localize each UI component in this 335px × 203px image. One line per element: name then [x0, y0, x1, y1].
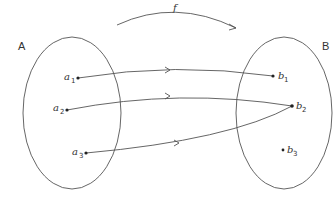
element-b1: b 1: [271, 70, 288, 84]
mapping-a3-b2: [86, 106, 292, 153]
mapping-a2-b2: [67, 98, 292, 110]
set-a-label: A: [18, 40, 26, 52]
element-b2-subscript: 2: [302, 106, 306, 114]
element-a1-dot: [76, 76, 79, 79]
element-a3-label: a: [72, 146, 78, 157]
element-a3-subscript: 3: [79, 152, 83, 160]
element-a3-dot: [84, 151, 87, 154]
function-diagram: A B f a 1 a 2 a 3 b 1 b 2 b: [0, 0, 335, 203]
element-b1-subscript: 1: [284, 76, 288, 84]
element-a2-subscript: 2: [60, 108, 64, 116]
element-b3-subscript: 3: [293, 150, 297, 158]
element-a1: a 1: [64, 71, 80, 85]
set-b-ellipse: [236, 37, 332, 189]
element-b2-dot: [290, 104, 294, 108]
function-arc: [117, 12, 236, 28]
element-a3: a 3: [72, 146, 88, 160]
element-b2: b 2: [290, 100, 306, 114]
element-b1-dot: [271, 74, 274, 77]
set-b-label: B: [322, 40, 329, 52]
set-a-ellipse: [23, 37, 121, 189]
arrowhead-icon: [229, 24, 236, 30]
element-b3: b 3: [282, 144, 298, 158]
element-a2: a 2: [53, 102, 69, 116]
element-a2-dot: [65, 108, 68, 111]
function-label: f: [172, 2, 179, 13]
function-arrow: f: [117, 2, 236, 30]
element-b3-dot: [282, 149, 285, 152]
element-a2-label: a: [53, 102, 59, 113]
element-a1-subscript: 1: [71, 77, 75, 85]
element-a1-label: a: [64, 71, 70, 82]
